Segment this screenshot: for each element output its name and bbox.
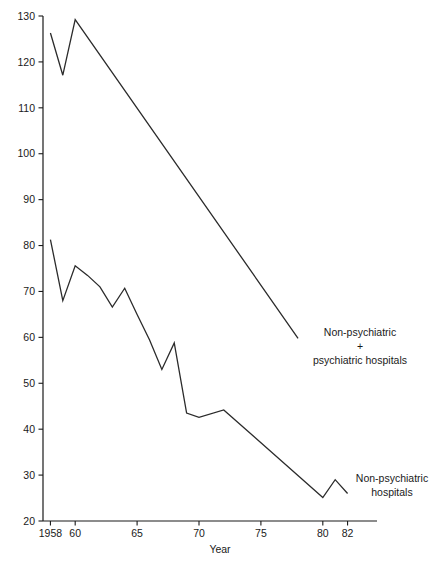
- series-layer: [50, 20, 347, 498]
- y-tick-label: 80: [23, 239, 35, 251]
- y-tick-label: 120: [17, 56, 35, 68]
- lower-series-label-line: Non-psychiatric: [356, 472, 428, 484]
- y-tick-label: 50: [23, 377, 35, 389]
- x-tick-label: 1958: [39, 527, 63, 539]
- x-axis-title: Year: [209, 543, 231, 555]
- lower-series-label-line: hospitals: [371, 486, 412, 498]
- y-tick-label: 40: [23, 423, 35, 435]
- series-line-2: [50, 240, 347, 498]
- x-tick-label: 70: [193, 527, 205, 539]
- y-tick-label: 130: [17, 10, 35, 22]
- x-tick-label: 60: [69, 527, 81, 539]
- y-tick-label: 60: [23, 331, 35, 343]
- x-axis: 1958606570758082: [39, 521, 377, 539]
- line-chart: 2030405060708090100110120130 19586065707…: [0, 0, 436, 568]
- chart-container: 2030405060708090100110120130 19586065707…: [0, 0, 436, 568]
- upper-series-label: Non-psychiatric+psychiatric hospitals: [313, 326, 407, 366]
- y-tick-label: 100: [17, 147, 35, 159]
- series-line-1: [50, 20, 298, 339]
- y-axis: 2030405060708090100110120130: [17, 10, 43, 527]
- x-tick-label: 82: [342, 527, 354, 539]
- x-tick-label: 65: [131, 527, 143, 539]
- y-tick-label: 30: [23, 469, 35, 481]
- x-tick-label: 80: [317, 527, 329, 539]
- upper-series-label-line: psychiatric hospitals: [313, 354, 407, 366]
- upper-series-label-line: Non-psychiatric: [324, 326, 396, 338]
- upper-series-label-line: +: [357, 340, 363, 352]
- y-tick-label: 110: [18, 102, 35, 114]
- x-tick-label: 75: [255, 527, 267, 539]
- lower-series-label: Non-psychiatrichospitals: [356, 472, 428, 498]
- y-tick-label: 90: [23, 193, 35, 205]
- annotation-layer: Non-psychiatric+psychiatric hospitalsNon…: [313, 326, 428, 498]
- y-tick-label: 20: [23, 515, 35, 527]
- y-tick-label: 70: [23, 285, 35, 297]
